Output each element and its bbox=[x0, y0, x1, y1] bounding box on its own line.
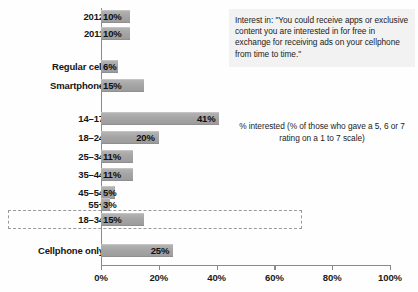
bar-row-label: 55+ bbox=[0, 198, 104, 211]
bar-row: 35–4411% bbox=[0, 168, 418, 181]
bar-row: 55+3% bbox=[0, 198, 418, 211]
bar-row-label: 14–17 bbox=[0, 112, 104, 125]
bar-value-label: 3% bbox=[103, 198, 116, 211]
axis-tick bbox=[390, 265, 391, 270]
axis-tick bbox=[159, 265, 160, 270]
bar-row-label: 18–34 bbox=[0, 213, 104, 226]
bar-value-label: 11% bbox=[103, 150, 121, 163]
axis-tick-label: 0% bbox=[94, 272, 108, 283]
bar-row: Cellphone only25% bbox=[0, 244, 418, 257]
axis-tick bbox=[101, 265, 102, 270]
bar-row-label: 25–34 bbox=[0, 150, 104, 163]
bar-value-label: 10% bbox=[103, 27, 122, 40]
axis-tick-label: 40% bbox=[207, 272, 226, 283]
axis-tick bbox=[332, 265, 333, 270]
category-axis-line bbox=[101, 265, 391, 266]
axis-tick-label: 60% bbox=[265, 272, 284, 283]
axis-tick-label: 100% bbox=[378, 272, 402, 283]
bar-row-label: 2012 bbox=[0, 10, 104, 23]
bar-value-label: 15% bbox=[103, 213, 122, 226]
axis-tick bbox=[274, 265, 275, 270]
axis-tick-label: 80% bbox=[323, 272, 342, 283]
bar-value-label: 25% bbox=[151, 244, 170, 257]
bar-value-label: 41% bbox=[197, 112, 216, 125]
bar-chart: 201210%201110%Regular cell6%Smartphone15… bbox=[0, 0, 418, 292]
bar-row-label: Cellphone only bbox=[0, 244, 104, 257]
bar-row-label: Regular cell bbox=[0, 60, 104, 73]
bar-value-label: 15% bbox=[103, 79, 122, 92]
bar-value-label: 20% bbox=[136, 131, 155, 144]
bar-row: 18–3415% bbox=[0, 213, 418, 226]
bar-row: Smartphone15% bbox=[0, 79, 418, 92]
bar-row-label: 35–44 bbox=[0, 168, 104, 181]
bar-row-label: 2011 bbox=[0, 27, 104, 40]
axis-tick bbox=[217, 265, 218, 270]
legend-note: % interested (% of those who gave a 5, 6… bbox=[232, 121, 412, 144]
bar-row-label: 18–24 bbox=[0, 131, 104, 144]
bar-value-label: 11% bbox=[103, 168, 121, 181]
axis-tick-label: 20% bbox=[149, 272, 168, 283]
bar-value-label: 10% bbox=[103, 10, 122, 23]
bar-row-label: Smartphone bbox=[0, 79, 104, 92]
bar-value-label: 6% bbox=[103, 60, 116, 73]
bar-row: 25–3411% bbox=[0, 150, 418, 163]
interest-question-callout: Interest in: "You could receive apps or … bbox=[229, 9, 415, 67]
